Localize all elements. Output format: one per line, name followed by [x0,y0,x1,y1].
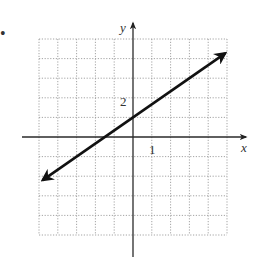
graph-line [43,53,225,180]
coordinate-plane: • y x 2 1 [0,0,268,280]
bullet: • [0,25,6,42]
y-tick-label: 2 [120,94,127,109]
y-axis-label: y [118,20,126,35]
x-tick-label: 1 [149,142,156,157]
x-axis-label: x [240,140,247,155]
